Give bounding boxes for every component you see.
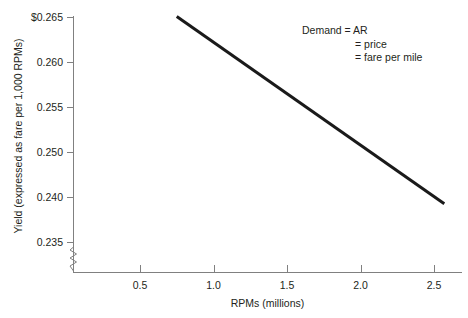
y-axis-break-icon — [67, 247, 80, 271]
x-axis-title: RPMs (millions) — [73, 297, 462, 309]
annotation-line-value: = price — [355, 38, 387, 50]
x-tick-label: 1.0 — [191, 280, 237, 291]
chart-figure: $0.2650.2600.2550.2500.2400.235 0.51.01.… — [0, 0, 468, 318]
y-tick-mark — [67, 62, 74, 63]
y-tick-label: $0.265 — [3, 12, 63, 23]
y-tick-mark — [67, 152, 74, 153]
annotation-line: Demand = AR — [302, 24, 422, 38]
x-tick-mark — [434, 265, 435, 273]
annotation-line-value: = AR — [345, 24, 368, 36]
x-axis-line — [73, 272, 462, 273]
x-tick-label: 2.5 — [411, 280, 457, 291]
y-axis-line — [73, 16, 74, 273]
x-tick-mark — [361, 265, 362, 273]
annotation-line: = fare per mile — [302, 51, 422, 65]
demand-annotation: Demand = AR= price= fare per mile — [302, 24, 422, 65]
x-tick-mark — [287, 265, 288, 273]
annotation-line-value: = fare per mile — [355, 51, 422, 63]
annotation-line: = price — [302, 38, 422, 52]
y-axis-title: Yield (expressed as fare per 1,000 RPMs) — [12, 26, 24, 246]
x-tick-mark — [214, 265, 215, 273]
y-tick-mark — [67, 242, 74, 243]
y-tick-mark — [67, 107, 74, 108]
x-tick-label: 0.5 — [117, 280, 163, 291]
annotation-line-label: Demand — [302, 24, 345, 36]
y-tick-mark — [67, 17, 74, 18]
x-tick-label: 2.0 — [338, 280, 384, 291]
x-tick-label: 1.5 — [264, 280, 310, 291]
x-tick-mark — [140, 265, 141, 273]
y-tick-mark — [67, 197, 74, 198]
